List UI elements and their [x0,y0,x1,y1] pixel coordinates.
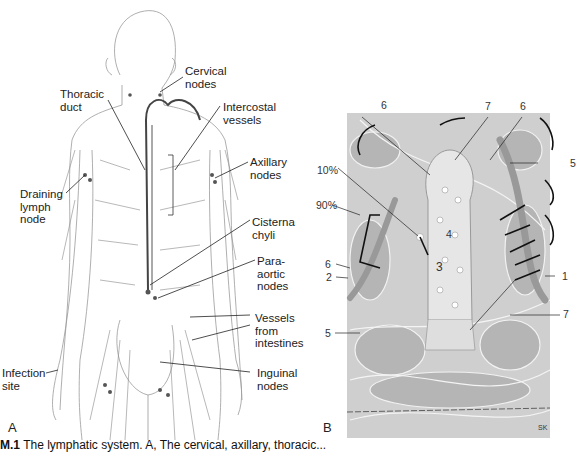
label-b-7-top: 7 [485,100,491,112]
panel-b-tissue-illustration [0,0,585,440]
caption-text: The lymphatic system. A, The cervical, a… [23,438,326,452]
label-b-2-left: 2 [326,271,332,283]
label-b-3: 3 [436,260,443,274]
label-b-5-left: 5 [325,327,331,339]
label-b-6-top-left: 6 [381,99,387,111]
label-b-90-percent: 90% [316,199,337,211]
panel-b-letter: B [323,420,332,435]
figure-caption: M.1 The lymphatic system. A, The cervica… [0,438,326,452]
figure-id: M.1 [0,438,20,452]
label-b-6-left: 6 [325,258,331,270]
label-b-5-right: 5 [570,157,576,169]
label-b-6-top-right: 6 [520,100,526,112]
artist-signature: SK [538,424,547,431]
label-b-1-right: 1 [562,270,568,282]
label-b-10-percent: 10% [317,164,338,176]
label-b-4: 4 [446,228,452,240]
label-b-7-right: 7 [563,308,569,320]
